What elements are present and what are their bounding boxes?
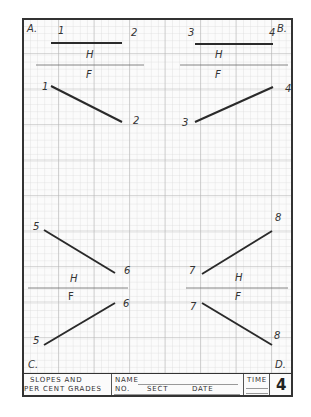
time-label: TIME [247,377,267,384]
point-label: 4 [285,84,291,94]
point-label: 6 [123,299,129,309]
view-label-f: F [68,292,74,302]
point-label: 3 [188,28,194,38]
corner-label-c: C. [28,360,38,370]
point-label: 6 [124,266,130,276]
point-label: 7 [189,266,195,276]
grid-and-drawing [0,0,311,417]
point-label: 3 [182,118,188,128]
date-label: DATE [192,386,213,393]
view-label-f: F [86,70,92,80]
info-field-line [114,394,240,395]
no-label: NO. [115,386,130,393]
point-label: 2 [131,28,137,38]
point-label: 8 [275,213,281,223]
corner-label-d: D. [275,360,286,370]
sheet-number-cell: 4 [270,374,292,395]
title-block: SLOPES AND PER CENT GRADES NAME NO. SECT… [22,373,293,397]
sheet-number: 4 [276,378,286,393]
point-label: 7 [190,302,196,312]
point-label: 1 [42,82,48,92]
sect-label: SECT [147,386,168,393]
corner-label-a: A. [27,24,37,34]
point-label: 2 [133,116,139,126]
view-label-h: H [235,273,243,283]
view-label-h: H [86,50,94,60]
title-cell: SLOPES AND PER CENT GRADES [24,374,112,395]
view-label-h: H [215,50,223,60]
view-label-f: F [215,70,221,80]
view-label-h: H [70,274,78,284]
point-label: 8 [274,331,280,341]
time-field-line [246,388,268,389]
point-label: 1 [58,26,64,36]
time-field-line [246,393,268,394]
point-label: 5 [33,336,39,346]
time-cell: TIME [244,374,270,395]
corner-label-b: B. [277,24,287,34]
view-label-f: F [235,292,241,302]
point-label: 4 [269,28,275,38]
sheet-title-line2: PER CENT GRADES [24,386,102,393]
point-label: 5 [33,222,39,232]
name-label: NAME [115,377,139,384]
student-info-cell: NAME NO. SECT DATE [112,374,244,395]
sheet-title-line1: SLOPES AND [30,377,82,384]
